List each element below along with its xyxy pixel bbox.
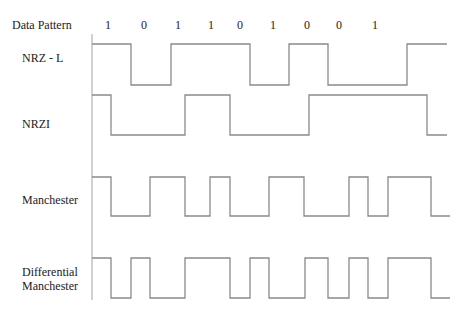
nrz-l-waveform: [92, 44, 447, 85]
nrzi-waveform: [92, 95, 447, 135]
differential-manchester-waveform: [92, 258, 450, 298]
waveform-diagram: [0, 0, 469, 314]
manchester-waveform: [92, 177, 450, 216]
